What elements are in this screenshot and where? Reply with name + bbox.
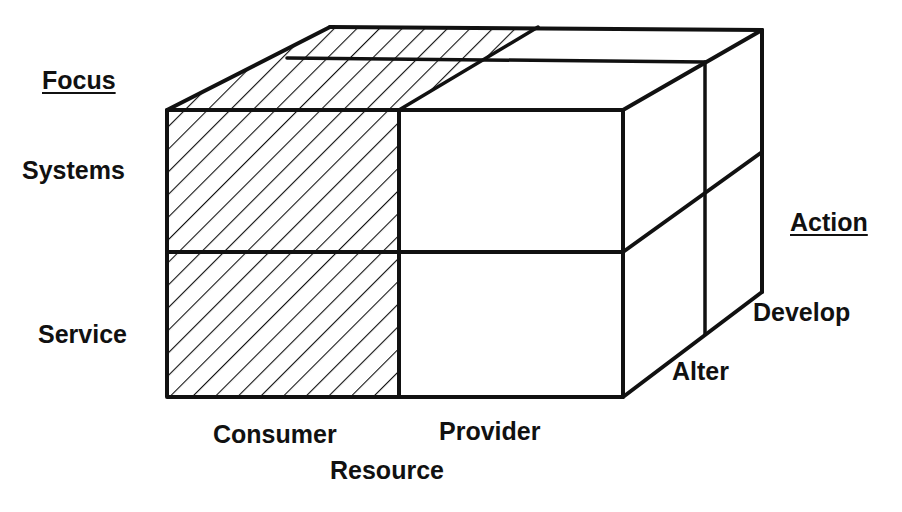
front-consumer-service-cell xyxy=(167,252,399,397)
action-level-alter: Alter xyxy=(672,359,729,384)
focus-axis-title: Focus xyxy=(42,68,116,93)
resource-level-provider: Provider xyxy=(439,419,540,444)
focus-level-systems: Systems xyxy=(22,158,125,183)
top-face-consumer-hatched xyxy=(167,27,538,110)
action-axis-title: Action xyxy=(790,210,868,235)
focus-level-service: Service xyxy=(38,322,127,347)
right-focus-divider xyxy=(623,152,762,252)
top-right-edge xyxy=(623,30,762,110)
front-consumer-systems-cell xyxy=(167,110,399,252)
resource-axis-title: Resource xyxy=(330,458,444,483)
action-level-develop: Develop xyxy=(753,300,850,325)
cube-diagram: Focus Systems Service Consumer Provider … xyxy=(0,0,902,512)
resource-level-consumer: Consumer xyxy=(213,422,337,447)
